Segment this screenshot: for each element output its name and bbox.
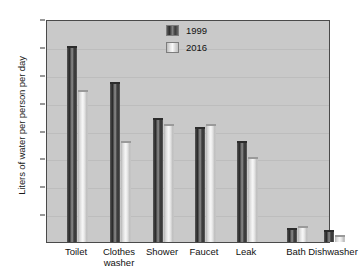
bar-1999-leak [237,142,247,242]
legend-label: 2016 [186,42,207,53]
y-axis-tick-mark [40,159,45,160]
bar-1999-bath [287,229,297,242]
bar-cap [298,226,308,228]
bar-cap [335,235,345,237]
y-axis-tick-mark [40,215,45,216]
light-gradient-bar-swatch [166,42,179,53]
gridline [47,216,329,217]
x-axis-tick-label: Dishwasher [293,246,363,257]
y-axis-title: Liters of water per person per day [16,31,27,221]
bar-cap [237,141,247,143]
bar-1999-clothes-washer [110,83,120,242]
dark-gradient-bar-swatch [166,25,179,36]
bar-1999-dishwasher [324,231,334,242]
legend-label: 1999 [186,25,207,36]
y-axis-tick-mark [40,187,45,188]
gridline [47,105,329,106]
bar-2016-toilet [78,91,88,242]
bar-2016-faucet [206,125,216,242]
gridline [47,160,329,161]
y-axis-tick-mark [40,47,45,48]
bar-cap [206,124,216,126]
bar-2016-leak [248,158,258,242]
gridline [47,77,329,78]
y-axis-tick-mark [40,131,45,132]
legend-item: 1999 [166,24,207,37]
bar-cap [195,127,205,129]
bar-cap [78,90,88,92]
y-axis-tick-mark [40,75,45,76]
bar-cap [248,157,258,159]
bar-2016-shower [164,125,174,242]
bar-cap [153,118,163,120]
y-axis-tick-mark [40,103,45,104]
bar-cap [287,228,297,230]
bar-1999-faucet [195,128,205,242]
y-axis-tick-mark [40,20,45,21]
legend: 19992016 [166,24,207,58]
bar-1999-shower [153,119,163,242]
bar-2016-bath [298,227,308,242]
bar-1999-toilet [67,47,77,242]
bar-cap [324,230,334,232]
gridline [47,188,329,189]
bar-cap [164,124,174,126]
gridline [47,133,329,134]
legend-item: 2016 [166,41,207,54]
bar-cap [121,141,131,143]
bar-cap [67,46,77,48]
bar-cap [110,82,120,84]
bar-2016-clothes-washer [121,142,131,242]
bar-2016-dishwasher [335,236,345,242]
